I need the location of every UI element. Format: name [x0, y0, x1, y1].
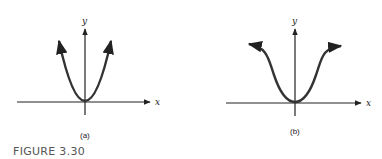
- panel-a: y x (a): [17, 16, 160, 140]
- panel-label-a: (a): [80, 131, 90, 140]
- figure-canvas: y x (a) y x (b): [0, 0, 382, 159]
- y-axis-label: y: [291, 16, 298, 26]
- x-axis-label: x: [155, 97, 160, 107]
- figure-caption: FIGURE 3.30: [13, 145, 85, 158]
- panel-label-b: (b): [290, 127, 300, 136]
- x-axis-label: x: [366, 98, 371, 108]
- y-axis-label: y: [81, 16, 88, 26]
- panel-b: y x (b): [226, 16, 371, 136]
